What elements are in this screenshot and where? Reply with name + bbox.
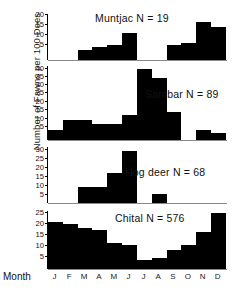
bar: [196, 22, 211, 60]
month-tick-label: A: [151, 272, 166, 281]
bar: [78, 228, 93, 269]
bar: [92, 230, 107, 269]
y-axis-ticks-muntjac: 20 15 10 5: [22, 14, 48, 60]
bar: [48, 222, 63, 269]
bar: [107, 173, 122, 203]
bar: [211, 27, 226, 60]
panel-title-sambar: Sambar N = 89: [145, 88, 219, 100]
panel-title-muntjac: Muntjac N = 19: [95, 12, 169, 24]
y-axis-ticks-hog-deer: 30 25 20 15 10 5: [22, 147, 48, 203]
y-tick-label: 10: [36, 241, 45, 250]
month-tick-label: F: [62, 272, 77, 281]
bar: [167, 112, 182, 140]
y-tick-label: 25: [36, 88, 45, 97]
month-axis-label: Month: [3, 271, 31, 282]
bar: [107, 243, 122, 269]
y-tick-label: 15: [36, 20, 45, 29]
bar: [48, 130, 63, 140]
bar: [107, 124, 122, 140]
bar: [78, 187, 93, 203]
y-tick-label: 10: [36, 30, 45, 39]
month-tick-label: O: [180, 272, 195, 281]
y-tick-label: 25: [36, 154, 45, 163]
bar: [122, 115, 137, 140]
bar: [181, 245, 196, 269]
bar: [92, 187, 107, 203]
panel-title-chital: Chital N = 576: [115, 212, 185, 224]
y-tick-label: 20: [36, 10, 45, 19]
bar: [122, 33, 137, 60]
bar: [78, 120, 93, 140]
bar: [152, 78, 167, 140]
month-tick-label: S: [166, 272, 181, 281]
figure: Number of Fawns per 100 Does 20 15 10 5 …: [0, 0, 238, 293]
bar: [78, 50, 93, 60]
bar-series-sambar: [48, 66, 226, 140]
bar: [196, 130, 211, 140]
bar: [92, 47, 107, 60]
bar: [63, 120, 78, 140]
y-tick-label: 15: [36, 105, 45, 114]
y-tick-label: 30: [36, 145, 45, 154]
month-tick-label: M: [106, 272, 121, 281]
month-tick-label: J: [136, 272, 151, 281]
month-tick-label: N: [195, 272, 210, 281]
bar: [92, 124, 107, 140]
bar: [167, 45, 182, 60]
bar: [152, 258, 167, 269]
month-tick-label: D: [210, 272, 225, 281]
month-tick-label: J: [47, 272, 62, 281]
bar: [107, 45, 122, 60]
bar: [137, 69, 152, 140]
bar: [167, 250, 182, 269]
y-tick-label: 25: [36, 208, 45, 217]
y-tick-label: 15: [36, 172, 45, 181]
month-axis: JFMAMJJASOND: [47, 272, 225, 281]
bar: [122, 245, 137, 269]
baseline-sambar: [48, 140, 227, 141]
month-tick-label: M: [77, 272, 92, 281]
month-tick-label: A: [91, 272, 106, 281]
bar: [137, 260, 152, 269]
y-tick-label: 10: [36, 181, 45, 190]
y-tick-label: 20: [36, 163, 45, 172]
bar: [211, 213, 226, 269]
baseline-muntjac: [48, 60, 227, 61]
bar: [152, 194, 167, 203]
y-axis-ticks-sambar: 40 35 30 25 20 15 10 5: [22, 66, 48, 140]
y-tick-label: 20: [36, 219, 45, 228]
panel-title-hog-deer: Hog deer N = 68: [125, 166, 205, 178]
y-axis-ticks-chital: 25 20 15 10 5: [22, 211, 48, 269]
bar: [63, 224, 78, 269]
bar: [181, 43, 196, 60]
baseline-chital: [48, 269, 227, 270]
bar: [196, 232, 211, 269]
y-tick-label: 15: [36, 230, 45, 239]
plot-area-sambar: 40 35 30 25 20 15 10 5: [47, 66, 226, 140]
month-tick-label: J: [121, 272, 136, 281]
baseline-hog-deer: [48, 203, 227, 204]
